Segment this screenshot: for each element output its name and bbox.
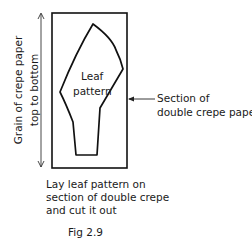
grain-label-line1: Grain of crepe paper (12, 30, 24, 150)
leaf-label-line2: pattern (73, 85, 112, 98)
instruction-line-2: section of double crepe (46, 191, 169, 204)
section-label-line1: Section of (157, 92, 209, 105)
figure-caption: Fig 2.9 (68, 226, 103, 238)
leaf-label-line1: Leaf (81, 70, 103, 83)
grain-label-line2: top to bottom (28, 30, 40, 150)
section-pointer-arrow-icon (128, 97, 155, 102)
instruction-line-3: and cut it out (46, 204, 117, 217)
instruction-line-1: Lay leaf pattern on (46, 178, 146, 191)
section-label-line2: double crepe paper (157, 106, 252, 119)
